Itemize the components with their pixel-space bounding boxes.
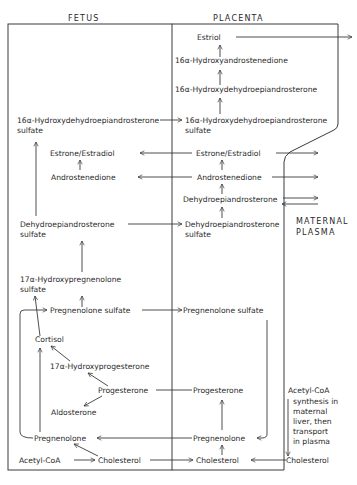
placenta-androstenedione: Androstenedione [197, 173, 262, 182]
maternal-note-line4: transport [293, 427, 328, 436]
placenta-cholesterol: Cholesterol [196, 456, 239, 465]
fetus-pregnenolone: Pregnenolone [34, 434, 86, 443]
placenta-header: PLACENTA [213, 14, 264, 23]
maternal-note-line3: liver, then [293, 417, 332, 426]
fetus-dhea-sulfate: Dehydroepiandrosterone [20, 220, 115, 229]
fetus-17oh-pregnenolone-sulfate-line2: sulfate [20, 285, 46, 294]
arrow-diag [84, 396, 102, 406]
arrow-diag [74, 444, 98, 456]
maternal-note-line1: synthesis in [293, 397, 338, 406]
fetus-estrone-estradiol: Estrone/Estradiol [50, 149, 115, 158]
fetus-acetyl-coa: Acetyl-CoA [19, 456, 61, 465]
fetus-16oh-dhea-sulfate-line2: sulfate [17, 126, 43, 135]
maternal-note-line2: maternal [293, 407, 327, 416]
placenta-16oh-androstenedione: 16α-Hydroxyandrostenedione [175, 56, 288, 65]
fetus-progesterone: Progesterone [98, 386, 149, 395]
maternal-plasma-label-2: PLASMA [296, 228, 336, 237]
maternal-acetyl-coa: Acetyl-CoA [288, 386, 330, 395]
maternal-cholesterol: Cholesterol [286, 456, 329, 465]
placenta-16oh-dhea: 16α-Hydroxydehydroepiandrosterone [175, 85, 318, 94]
arrow-diag [51, 346, 70, 361]
placenta-pregnenolone-sulfate: Pregnenolone sulfate [183, 306, 264, 315]
placenta-estriol: Estriol [197, 33, 221, 42]
fetus-17oh-progesterone: 17α-Hydroxyprogesterone [50, 362, 150, 371]
fetus-header: FETUS [68, 14, 99, 23]
maternal-plasma-label-1: MATERNAL [296, 217, 349, 226]
placenta-pregnenolone: Pregnenolone [193, 434, 245, 443]
fetus-androstenedione: Androstenedione [51, 173, 116, 182]
fetus-cholesterol: Cholesterol [98, 456, 141, 465]
steroid-pathway-diagram: FETUS PLACENTA Estriol 16α-Hydroxyandros… [0, 0, 357, 485]
placenta-16oh-dhea-sulfate-line2: sulfate [185, 126, 211, 135]
maternal-note-line5: in plasma [293, 437, 330, 446]
fetus-pregnenolone-sulfate: Pregnenolone sulfate [50, 306, 131, 315]
placenta-estrone-estradiol: Estrone/Estradiol [196, 149, 261, 158]
fetus-17oh-pregnenolone-sulfate: 17α-Hydroxypregnenolone [20, 275, 122, 284]
placenta-dhea-sulfate: Dehydroepiandrosterone [185, 220, 280, 229]
placenta-16oh-dhea-sulfate: 16α-Hydroxydehydroepiandrosterone [185, 116, 328, 125]
cortisol-up-arrow [35, 296, 40, 336]
fetus-16oh-dhea-sulfate: 16α-Hydroxydehydroepiandrosterone [17, 116, 160, 125]
pregnenolone-sulfate-to-pregnenolone-arrow [257, 320, 267, 438]
fetus-aldosterone: Aldosterone [51, 408, 97, 417]
pregnenolone-to-sulfate-loop-arrow [20, 310, 47, 438]
fetus-cortisol: Cortisol [35, 335, 64, 344]
placenta-dhea-sulfate-line2: sulfate [185, 230, 211, 239]
placenta-progesterone: Progesterone [193, 386, 244, 395]
fetus-dhea-sulfate-line2: sulfate [20, 230, 46, 239]
placenta-dhea: Dehydroepiandrosterone [183, 195, 278, 204]
arrow-diag [88, 373, 108, 386]
